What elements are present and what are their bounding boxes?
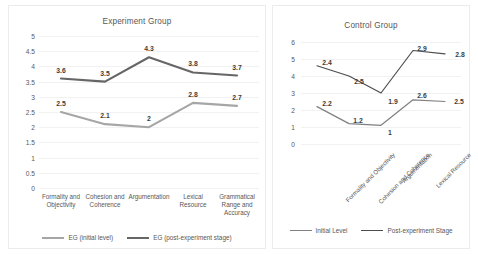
- y-axis-tick-label: 0: [279, 141, 295, 148]
- series-lines-experiment-group: [39, 36, 259, 188]
- data-label: 3.7: [232, 63, 241, 70]
- data-label: 2.5: [454, 97, 463, 104]
- gridline: [39, 188, 259, 189]
- data-label: 2.5: [354, 78, 363, 85]
- y-axis-tick-label: 4.5: [13, 48, 35, 55]
- y-axis-tick-label: 1: [13, 154, 35, 161]
- data-label: 2.2: [322, 99, 331, 106]
- y-axis-tick-label: 3: [279, 90, 295, 97]
- data-label: 2.9: [417, 44, 426, 51]
- y-axis-tick-label: 1.5: [13, 139, 35, 146]
- data-label: 4.3: [144, 45, 153, 52]
- legend-line-icon: [127, 237, 149, 239]
- figure-canvas: Experiment Group 54.543.532.521.510.50 2…: [0, 0, 478, 254]
- legend-label: EG (initial level): [68, 234, 113, 241]
- plot-area-experiment-group: 54.543.532.521.510.50 2.52.122.82.73.63.…: [39, 36, 259, 188]
- data-label: 3.8: [188, 60, 197, 67]
- x-axis-tick-label: Formality and Objectivity: [38, 193, 84, 209]
- legend-experiment-group: EG (initial level)EG (post-experiment st…: [9, 234, 265, 241]
- data-label: 3.5: [100, 69, 109, 76]
- y-axis-tick-label: 4: [279, 73, 295, 80]
- y-axis-tick-label: 0.5: [13, 169, 35, 176]
- data-label: 2.1: [100, 112, 109, 119]
- data-label: 2.7: [232, 93, 241, 100]
- x-axis-tick-label: Argumentation: [400, 151, 433, 184]
- legend-line-icon: [290, 230, 312, 231]
- gridline: [301, 144, 461, 145]
- y-axis-tick-label: 6: [279, 39, 295, 46]
- data-label: 1: [388, 129, 392, 136]
- chart-title-control-group: Control Group: [273, 21, 469, 30]
- y-axis-tick-label: 3.5: [13, 78, 35, 85]
- series-line: [317, 100, 445, 126]
- y-axis-tick-label: 4: [13, 63, 35, 70]
- y-axis-tick-label: 0: [13, 185, 35, 192]
- legend-item[interactable]: Initial Level: [290, 227, 348, 234]
- y-axis-tick-label: 1: [279, 124, 295, 131]
- x-axis-tick-label: Lexical Resource: [175, 193, 211, 209]
- data-label: 3.6: [56, 66, 65, 73]
- data-label: 1.2: [353, 116, 362, 123]
- legend-line-icon: [361, 230, 383, 231]
- data-label: 2.4: [322, 58, 331, 65]
- y-axis-tick-label: 2.5: [13, 109, 35, 116]
- legend-label: EG (post-experiment stage): [153, 234, 232, 241]
- plot-area-control-group: 6543210 2.21.212.62.52.42.51.92.92.8 For…: [301, 42, 461, 144]
- y-axis-tick-label: 2: [279, 107, 295, 114]
- chart-title-experiment-group: Experiment Group: [9, 17, 265, 26]
- series-lines-control-group: [301, 42, 461, 144]
- data-label: 2.5: [56, 100, 65, 107]
- series-line: [61, 57, 237, 81]
- y-axis-tick-label: 2: [13, 124, 35, 131]
- x-axis-tick-label: Lexical Resource: [434, 151, 472, 189]
- chart-panel-experiment-group: Experiment Group 54.543.532.521.510.50 2…: [8, 5, 266, 249]
- legend-item[interactable]: EG (initial level): [42, 234, 113, 241]
- y-axis-tick-label: 3: [13, 93, 35, 100]
- legend-control-group: Initial LevelPost-experiment Stage: [273, 227, 469, 234]
- legend-line-icon: [42, 237, 64, 239]
- legend-item[interactable]: Post-experiment Stage: [361, 227, 452, 234]
- data-label: 1.9: [388, 98, 397, 105]
- data-label: 2.8: [455, 50, 464, 57]
- y-axis-tick-label: 5: [13, 33, 35, 40]
- y-axis-tick-label: 5: [279, 56, 295, 63]
- x-axis-tick-label: Cohesion and Coherence: [82, 193, 128, 209]
- data-label: 2.8: [188, 90, 197, 97]
- legend-item[interactable]: EG (post-experiment stage): [127, 234, 232, 241]
- legend-label: Post-experiment Stage: [387, 227, 452, 234]
- data-label: 2.6: [417, 91, 426, 98]
- x-axis-tick-label: Grammatical Range and Accuracy: [215, 193, 259, 217]
- data-label: 2: [147, 115, 151, 122]
- series-line: [317, 51, 445, 94]
- chart-panel-control-group: Control Group 6543210 2.21.212.62.52.42.…: [272, 5, 470, 249]
- legend-label: Initial Level: [316, 227, 348, 234]
- x-axis-tick-label: Argumentation: [126, 193, 172, 201]
